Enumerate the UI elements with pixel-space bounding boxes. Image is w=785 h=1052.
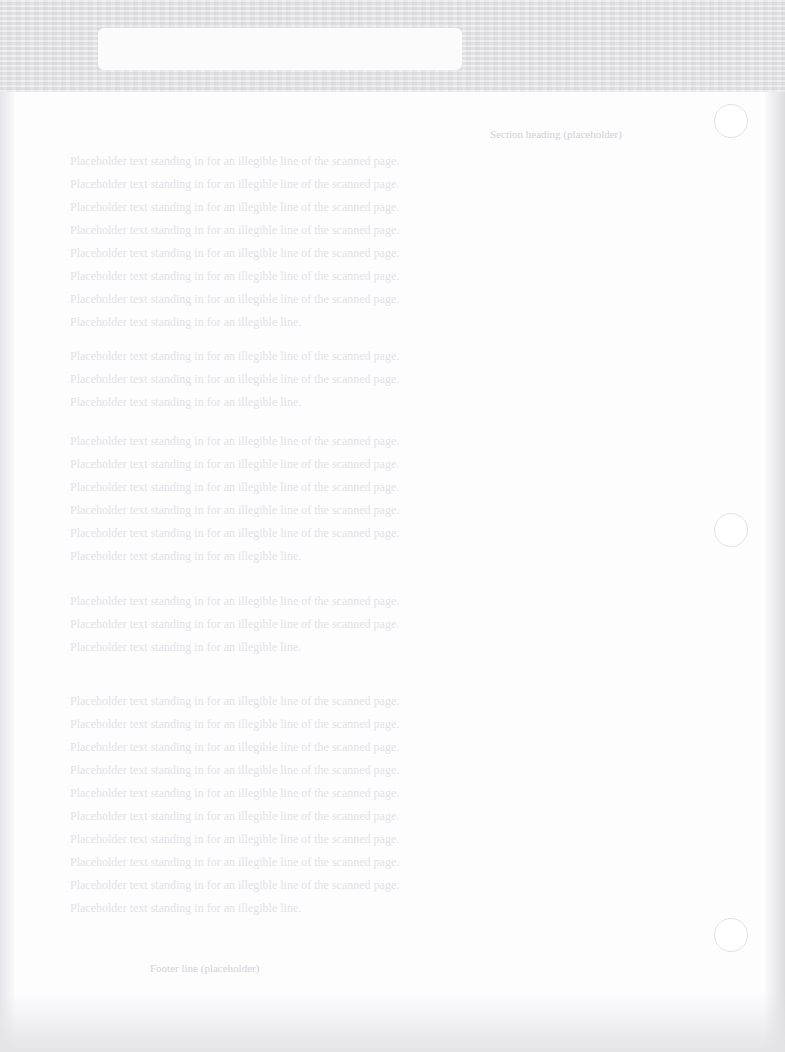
text-line: Placeholder text standing in for an ille…	[70, 636, 690, 659]
text-line: Placeholder text standing in for an ille…	[70, 828, 690, 851]
page-edge-right	[765, 92, 785, 1052]
footer-text: Footer line (placeholder)	[150, 962, 259, 974]
text-line: Placeholder text standing in for an ille…	[70, 897, 690, 920]
text-line: Placeholder text standing in for an ille…	[70, 713, 690, 736]
text-line: Placeholder text standing in for an ille…	[70, 265, 690, 288]
text-line: Placeholder text standing in for an ille…	[70, 345, 690, 368]
text-line: Placeholder text standing in for an ille…	[70, 288, 690, 311]
page-edge-left	[0, 92, 14, 1052]
paragraph-4: Placeholder text standing in for an ille…	[70, 590, 690, 659]
text-line: Placeholder text standing in for an ille…	[70, 150, 690, 173]
text-line: Placeholder text standing in for an ille…	[70, 736, 690, 759]
binder-hole-icon	[714, 104, 748, 138]
text-line: Placeholder text standing in for an ille…	[70, 311, 690, 334]
text-line: Placeholder text standing in for an ille…	[70, 219, 690, 242]
text-line: Placeholder text standing in for an ille…	[70, 196, 690, 219]
text-line: Placeholder text standing in for an ille…	[70, 690, 690, 713]
page-edge-bottom	[0, 992, 785, 1052]
binder-hole-icon	[714, 918, 748, 952]
binder-hole-icon	[714, 513, 748, 547]
text-line: Placeholder text standing in for an ille…	[70, 522, 690, 545]
text-line: Placeholder text standing in for an ille…	[70, 613, 690, 636]
text-line: Placeholder text standing in for an ille…	[70, 242, 690, 265]
text-line: Placeholder text standing in for an ille…	[70, 453, 690, 476]
text-line: Placeholder text standing in for an ille…	[70, 851, 690, 874]
text-line: Placeholder text standing in for an ille…	[70, 874, 690, 897]
text-line: Placeholder text standing in for an ille…	[70, 430, 690, 453]
paragraph-1: Placeholder text standing in for an ille…	[70, 150, 690, 334]
paragraph-5: Placeholder text standing in for an ille…	[70, 690, 690, 920]
text-line: Placeholder text standing in for an ille…	[70, 476, 690, 499]
text-line: Placeholder text standing in for an ille…	[70, 499, 690, 522]
paragraph-2: Placeholder text standing in for an ille…	[70, 345, 690, 414]
label-box	[98, 28, 462, 70]
text-line: Placeholder text standing in for an ille…	[70, 391, 690, 414]
section-heading: Section heading (placeholder)	[490, 128, 622, 140]
text-line: Placeholder text standing in for an ille…	[70, 782, 690, 805]
text-line: Placeholder text standing in for an ille…	[70, 173, 690, 196]
text-line: Placeholder text standing in for an ille…	[70, 368, 690, 391]
text-line: Placeholder text standing in for an ille…	[70, 545, 690, 568]
text-line: Placeholder text standing in for an ille…	[70, 759, 690, 782]
text-line: Placeholder text standing in for an ille…	[70, 805, 690, 828]
text-line: Placeholder text standing in for an ille…	[70, 590, 690, 613]
paragraph-3: Placeholder text standing in for an ille…	[70, 430, 690, 568]
